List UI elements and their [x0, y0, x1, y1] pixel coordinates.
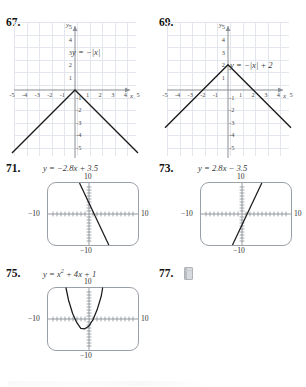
graph-67-x-axis-name: x: [130, 92, 133, 100]
problem-71: 71. y = −2.8x + 3.5: [0, 160, 153, 265]
graph-73-window-left: −10: [181, 210, 193, 218]
graph-67-xtick-4: 4: [120, 92, 130, 98]
graph-73-window-bottom: −10: [233, 247, 245, 255]
graph-73-window-top: 10: [237, 173, 245, 181]
graph-67-ytick--3: -3: [76, 120, 86, 126]
graph-75-window-bottom: −10: [80, 352, 92, 360]
problem-number-75: 75.: [6, 267, 20, 279]
graph-67-ytick--4: -4: [76, 132, 86, 138]
graph-69-ytick--4: -4: [229, 132, 239, 138]
graph-67-xtick-5: 5: [133, 92, 143, 98]
calculator-thumbnail-icon: [184, 267, 193, 280]
graph-67-xtick--1: -1: [57, 92, 67, 98]
graph-73-window-right: 10: [294, 210, 302, 218]
graph-69-x-axis-name: x: [283, 92, 286, 100]
graph-67-xtick--5: -5: [7, 92, 17, 98]
graph-69-xtick-4: 4: [273, 92, 283, 98]
graph-67-y-axis-name: y: [66, 21, 69, 29]
graph-71-window-top: 10: [84, 173, 92, 181]
graph-69-xtick--3: -3: [185, 92, 195, 98]
graph-67-ytick-3: 3: [62, 50, 72, 56]
problem-number-73: 73.: [159, 162, 173, 174]
graph-69-ytick-2: 2: [215, 62, 225, 68]
graph-67-xtick--3: -3: [32, 92, 42, 98]
graph-71-window-left: −10: [28, 210, 40, 218]
graph-67-ytick-1: 1: [62, 75, 72, 81]
graph-69-xtick--5: -5: [160, 92, 170, 98]
graph-69-xtick--1: -1: [210, 92, 220, 98]
problem-69: 69. -5 -4 -3 -2 -1 1 2 3 4 5 5 4 3: [153, 14, 306, 160]
graph-71-window-right: 10: [141, 210, 149, 218]
graph-69: -5 -4 -3 -2 -1 1 2 3 4 5 5 4 3 2 1 -1 -2…: [167, 22, 291, 158]
graph-69-ytick--1: -1: [229, 95, 239, 101]
graph-75-window-left: −10: [28, 315, 40, 323]
graph-75-window-top: 10: [84, 278, 92, 286]
problem-69-equation: y = −|x| + 2: [230, 60, 273, 70]
graph-69-xtick-3: 3: [261, 92, 271, 98]
graph-67-ytick--1: -1: [76, 95, 86, 101]
graph-71-plot: [47, 182, 139, 246]
textbook-page: 67. -5 -4 -3 -2 -1 1 2 3 4 5: [0, 0, 306, 387]
graph-69-y-axis-name: y: [219, 21, 222, 29]
graph-69-xtick--2: -2: [198, 92, 208, 98]
graph-69-ytick-1: 1: [215, 75, 225, 81]
graph-67-xtick-2: 2: [95, 92, 105, 98]
graph-69-ytick-4: 4: [215, 37, 225, 43]
graph-69-xtick--4: -4: [173, 92, 183, 98]
graph-75-plot: [47, 287, 139, 351]
graph-67-ytick--2: -2: [76, 107, 86, 113]
graph-69-ytick-3: 3: [215, 50, 225, 56]
graph-69-ytick--3: -3: [229, 120, 239, 126]
graph-73: 10 −10 −10 10: [200, 182, 292, 246]
graph-69-xtick-5: 5: [286, 92, 296, 98]
problem-67-equation: y = −|x|: [72, 47, 100, 57]
problem-number-71: 71.: [6, 162, 20, 174]
problem-75: 75. y = x2 + 4x + 1: [0, 265, 153, 375]
graph-67-ytick-2: 2: [62, 62, 72, 68]
problem-number-77: 77.: [159, 267, 173, 279]
graph-67: -5 -4 -3 -2 -1 1 2 3 4 5 5 4 3 2 1 -1 -2…: [14, 22, 138, 158]
graph-67-xtick-3: 3: [108, 92, 118, 98]
graph-73-plot: [200, 182, 292, 246]
graph-75-window-right: 10: [141, 315, 149, 323]
graph-69-ytick--5: -5: [229, 145, 239, 151]
graph-67-xtick--2: -2: [45, 92, 55, 98]
graph-75: 10 −10 −10 10: [47, 287, 139, 351]
graph-69-xtick-2: 2: [248, 92, 258, 98]
problem-73: 73. y = 2.8x − 3.5: [153, 160, 306, 265]
graph-67-ytick-4: 4: [62, 37, 72, 43]
problem-67: 67. -5 -4 -3 -2 -1 1 2 3 4 5: [0, 14, 153, 160]
graph-69-ytick--2: -2: [229, 107, 239, 113]
graph-71: 10 −10 −10 10: [47, 182, 139, 246]
graph-67-xtick--4: -4: [20, 92, 30, 98]
problem-77: 77.: [153, 265, 306, 305]
graph-67-ytick--5: -5: [76, 145, 86, 151]
page-footer-artifact: [8, 381, 208, 386]
graph-71-window-bottom: −10: [80, 247, 92, 255]
